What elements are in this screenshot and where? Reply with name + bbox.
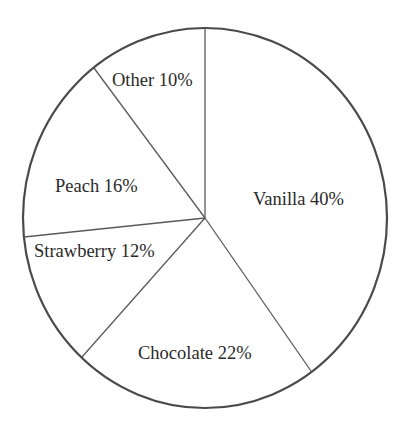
slice-label-other: Other 10%: [112, 70, 193, 90]
slice-label-vanilla: Vanilla 40%: [253, 189, 344, 209]
slice-label-peach: Peach 16%: [55, 176, 138, 196]
pie-chart: Vanilla 40% Chocolate 22% Strawberry 12%…: [0, 0, 409, 426]
slice-label-strawberry: Strawberry 12%: [34, 241, 155, 261]
slice-label-chocolate: Chocolate 22%: [138, 343, 252, 363]
